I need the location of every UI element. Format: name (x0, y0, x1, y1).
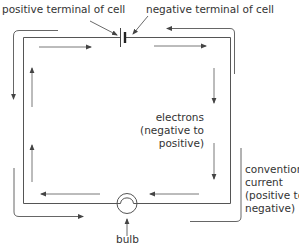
electrons-label-line1: electrons (156, 111, 204, 123)
electrons-label-line2: (negative to (140, 124, 204, 136)
positive-terminal-label: positive terminal of cell (2, 3, 125, 15)
conventional-label-line4: negative) (245, 202, 295, 214)
bulb-symbol (117, 194, 137, 214)
cell-symbol (121, 28, 126, 47)
conventional-current-path (14, 29, 249, 222)
negative-terminal-label: negative terminal of cell (146, 3, 274, 15)
conventional-label-line2: current (245, 176, 283, 188)
electrons-label-line3: positive) (159, 137, 204, 149)
conventional-label-line3: (positive to (245, 189, 299, 201)
conventional-label-line1: conventional (245, 163, 299, 175)
bulb-label: bulb (116, 233, 139, 245)
